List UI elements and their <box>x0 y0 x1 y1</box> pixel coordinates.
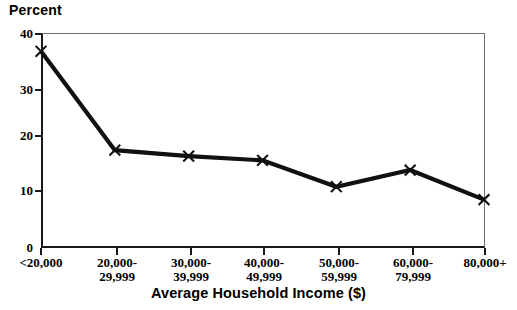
chart-container: Percent 40 30 20 10 0 <20,000 20,000- 29… <box>0 0 517 310</box>
x-tick-mark-2 <box>190 248 192 255</box>
x-tick-mark-6 <box>484 248 486 255</box>
plot-area <box>41 33 485 248</box>
x-axis-title: Average Household Income ($) <box>0 285 517 301</box>
x-tick-mark-3 <box>263 248 265 255</box>
x-tick-mark-1 <box>116 248 118 255</box>
series-line <box>29 21 497 260</box>
x-tick-label-6: 80,000+ <box>440 256 517 270</box>
x-tick-mark-0 <box>40 248 42 255</box>
data-point-marker <box>36 46 47 57</box>
x-tick-label-6-line1: 80,000+ <box>440 256 517 270</box>
x-tick-label-5-line2: 79,999 <box>368 270 458 284</box>
x-tick-mark-4 <box>338 248 340 255</box>
x-tick-mark-5 <box>412 248 414 255</box>
